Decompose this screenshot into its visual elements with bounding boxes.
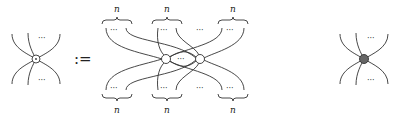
svg-text:···: ···	[196, 84, 204, 93]
svg-text:···: ···	[177, 55, 185, 64]
brace-label: n	[164, 105, 170, 115]
svg-text:···: ···	[367, 76, 375, 85]
svg-text:···: ···	[110, 84, 118, 93]
top-brace	[152, 17, 182, 24]
top-brace	[102, 17, 132, 24]
open-node-icon	[162, 55, 171, 64]
brace-label: n	[164, 4, 170, 14]
middle-diagram: n n n n n n ··· ··· ··· ··· ··· ··· ··· …	[102, 4, 248, 115]
brace-label: n	[230, 4, 236, 14]
svg-text:···: ···	[160, 26, 168, 35]
bottom-brace	[102, 94, 132, 101]
right-node-diagram: ··· ···	[340, 33, 388, 85]
brace-label: n	[114, 105, 120, 115]
brace-label: n	[230, 105, 236, 115]
svg-text:···: ···	[367, 34, 375, 43]
definition-symbol: :=	[74, 50, 92, 68]
bottom-brace	[152, 94, 182, 101]
svg-text:···: ···	[160, 84, 168, 93]
ellipsis: ···	[38, 76, 46, 85]
diagram-canvas: ··· ··· := n n n n n n ··· ··· ··· ··· ·…	[0, 0, 398, 119]
ellipsis: ···	[38, 34, 46, 43]
filled-node-icon	[360, 55, 369, 64]
svg-text:···: ···	[226, 26, 234, 35]
svg-text:···: ···	[110, 26, 118, 35]
left-node-diagram: ··· ···	[12, 33, 60, 85]
bottom-brace	[218, 94, 248, 101]
open-node-icon	[196, 55, 205, 64]
brace-label: n	[114, 4, 120, 14]
svg-text:···: ···	[196, 26, 204, 35]
top-brace	[218, 17, 248, 24]
svg-text:···: ···	[226, 84, 234, 93]
